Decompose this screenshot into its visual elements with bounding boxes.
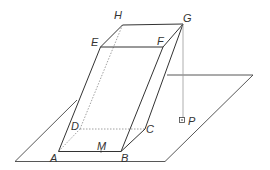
- label-h: H: [114, 10, 122, 21]
- hidden-edges: [59, 25, 146, 152]
- label-e: E: [91, 37, 98, 48]
- label-p: P: [188, 116, 195, 127]
- diagram-canvas: [0, 0, 270, 170]
- label-c: C: [146, 124, 154, 135]
- label-b: B: [121, 153, 128, 164]
- visible-edges: [59, 24, 184, 152]
- label-m: M: [97, 141, 106, 152]
- label-a: A: [50, 153, 57, 164]
- label-d: D: [71, 121, 79, 132]
- geometry-diagram: H G E F D C A M B P: [0, 0, 270, 170]
- label-g: G: [183, 13, 192, 24]
- label-f: F: [157, 36, 164, 47]
